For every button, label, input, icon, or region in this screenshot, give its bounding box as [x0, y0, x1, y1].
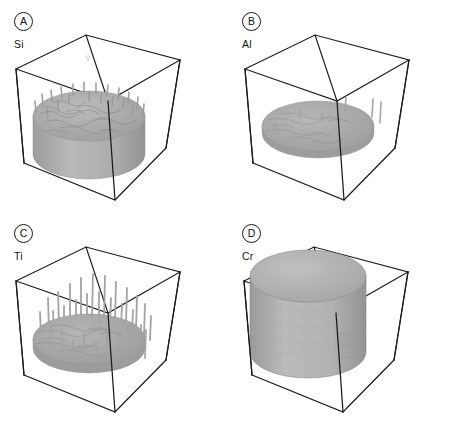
- panel-c: C Ti: [0, 212, 228, 424]
- panel-a: A Si: [0, 0, 228, 212]
- scene-al: [228, 0, 456, 212]
- scene-cr: [228, 212, 456, 424]
- artifact-marks-si: [81, 56, 90, 88]
- panel-d: D Cr: [228, 212, 456, 424]
- panel-b: B Al: [228, 0, 456, 212]
- scene-si: [0, 0, 228, 212]
- volume-al: [262, 97, 381, 158]
- figure-panel-grid: A Si: [0, 0, 456, 424]
- scene-ti: [0, 212, 228, 424]
- volume-cr: [250, 250, 366, 378]
- volume-ti: [33, 314, 145, 373]
- volume-si: [33, 82, 145, 179]
